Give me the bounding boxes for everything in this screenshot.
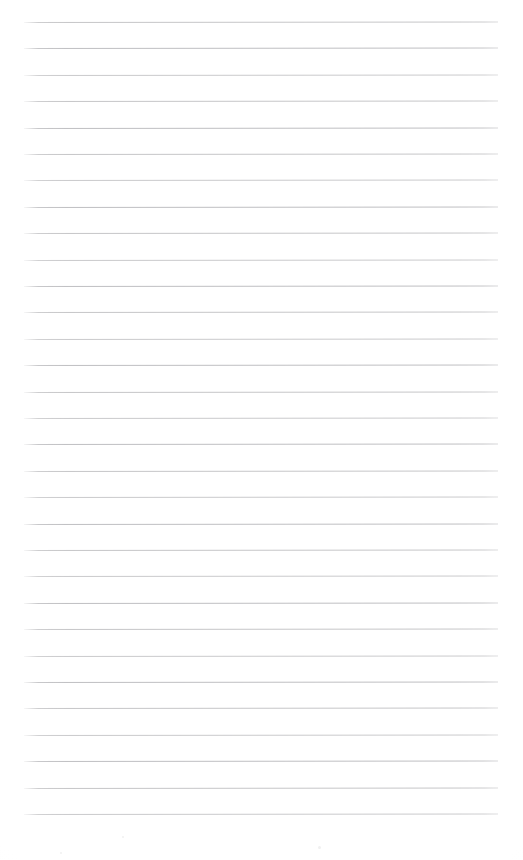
notebook-page bbox=[0, 0, 523, 860]
scan-speck bbox=[60, 852, 62, 854]
writing-area[interactable] bbox=[24, 22, 498, 814]
scan-speck bbox=[318, 846, 321, 849]
scan-speck bbox=[122, 836, 124, 838]
